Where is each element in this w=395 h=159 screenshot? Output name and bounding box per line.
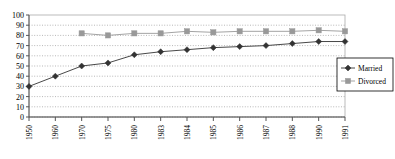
data-point-divorced-1980 [132, 31, 137, 36]
y-tick-label-0: 0 [20, 113, 24, 122]
data-point-divorced-1991 [342, 29, 347, 34]
legend-box [337, 58, 393, 91]
data-point-divorced-1987 [263, 29, 268, 34]
x-tick-label-1980: 1980 [130, 125, 139, 140]
line-chart: 0102030405060708090100195019601970197519… [0, 0, 395, 159]
x-tick-label-1985: 1985 [209, 125, 218, 140]
legend-label-married: Married [358, 64, 382, 73]
x-tick-label-1988: 1988 [288, 125, 297, 140]
x-tick-label-1950: 1950 [25, 125, 34, 140]
y-tick-label-50: 50 [16, 62, 24, 71]
y-tick-label-70: 70 [16, 42, 24, 51]
x-tick-label-1970: 1970 [78, 125, 87, 140]
data-point-divorced-1985 [211, 30, 216, 35]
data-point-divorced-1975 [105, 33, 110, 38]
x-tick-label-1991: 1991 [341, 125, 350, 140]
legend-marker-divorced [345, 78, 350, 83]
y-tick-label-90: 90 [16, 21, 24, 30]
data-point-divorced-1984 [184, 29, 189, 34]
y-tick-label-100: 100 [12, 11, 24, 20]
x-tick-label-1987: 1987 [262, 125, 271, 140]
x-tick-label-1984: 1984 [183, 125, 192, 140]
y-tick-label-40: 40 [16, 72, 24, 81]
data-point-divorced-1990 [316, 28, 321, 33]
x-tick-label-1983: 1983 [157, 125, 166, 140]
y-tick-label-20: 20 [16, 93, 24, 102]
y-tick-label-60: 60 [16, 52, 24, 61]
data-point-divorced-1970 [79, 31, 84, 36]
x-tick-label-1986: 1986 [236, 125, 245, 140]
legend-label-divorced: Divorced [358, 77, 386, 86]
data-point-divorced-1988 [290, 29, 295, 34]
y-tick-label-80: 80 [16, 31, 24, 40]
data-point-divorced-1986 [237, 29, 242, 34]
chart-container: 0102030405060708090100195019601970197519… [0, 0, 395, 159]
x-tick-label-1975: 1975 [104, 125, 113, 140]
y-tick-label-30: 30 [16, 82, 24, 91]
data-point-divorced-1983 [158, 31, 163, 36]
x-tick-label-1990: 1990 [315, 125, 324, 140]
x-tick-label-1960: 1960 [51, 125, 60, 140]
y-tick-label-10: 10 [16, 103, 24, 112]
